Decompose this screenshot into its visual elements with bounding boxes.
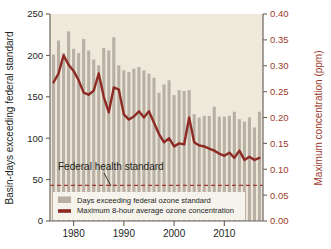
x-axis-tick-label: 2010 [213, 228, 236, 239]
legend-swatch-line-icon [58, 209, 71, 213]
bar [253, 127, 256, 221]
left-axis-tick-label: 100 [27, 133, 43, 144]
federal-health-standard-label: Federal health standard [58, 161, 164, 172]
right-axis-tick-label: 0.40 [270, 8, 289, 19]
right-axis-tick-label: 0.10 [270, 164, 289, 175]
plot-background [50, 14, 263, 221]
right-axis-tick-label: 0.25 [270, 86, 289, 97]
right-axis-tick-label: 0.15 [270, 138, 289, 149]
right-axis-tick-label: 0.30 [270, 60, 289, 71]
left-axis-tick-label: 50 [32, 174, 43, 185]
x-axis-tick-label: 2000 [163, 228, 186, 239]
right-axis-tick-label: 0.20 [270, 112, 289, 123]
legend-swatch-bar-icon [58, 197, 71, 204]
right-axis-tick-label: 0.00 [270, 215, 289, 226]
ozone-trend-chart: 050100150200250 0.000.050.100.150.200.25… [0, 0, 331, 249]
bar [258, 112, 261, 221]
bar [248, 118, 251, 222]
x-axis-tick-label: 1980 [62, 228, 85, 239]
left-axis-tick-label: 250 [27, 8, 43, 19]
legend-label-max-concentration: Maximum 8-hour average ozone concentrati… [77, 206, 234, 215]
chart-legend: Days exceeding federal ozone standard Ma… [53, 192, 245, 220]
right-axis-title: Maximum concentration (ppm) [313, 50, 324, 185]
right-axis-tick-label: 0.05 [270, 190, 289, 201]
left-axis-title: Basin-days exceeding federal standard [4, 32, 15, 205]
x-axis-tick-label: 1990 [113, 228, 136, 239]
left-axis-tick-label: 0 [38, 215, 43, 226]
left-axis-tick-label: 200 [27, 50, 43, 61]
right-axis-tick-label: 0.35 [270, 34, 289, 45]
legend-label-days-exceeding: Days exceeding federal ozone standard [77, 196, 211, 205]
chart-canvas: 050100150200250 0.000.050.100.150.200.25… [0, 0, 331, 249]
left-axis-tick-label: 150 [27, 91, 43, 102]
